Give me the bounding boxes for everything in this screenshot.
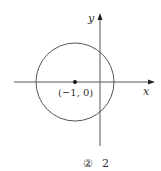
y-axis-arrow-icon <box>98 13 103 20</box>
choice-value: 2 <box>102 157 109 170</box>
x-axis-arrow-icon <box>148 80 155 85</box>
choice-marker: ② <box>83 157 93 170</box>
x-axis-label: x <box>143 85 150 98</box>
center-point <box>73 80 77 84</box>
center-label: (−1, 0) <box>58 87 93 98</box>
coordinate-diagram: y x (−1, 0) ② 2 <box>0 0 161 171</box>
y-axis-label: y <box>87 12 95 25</box>
